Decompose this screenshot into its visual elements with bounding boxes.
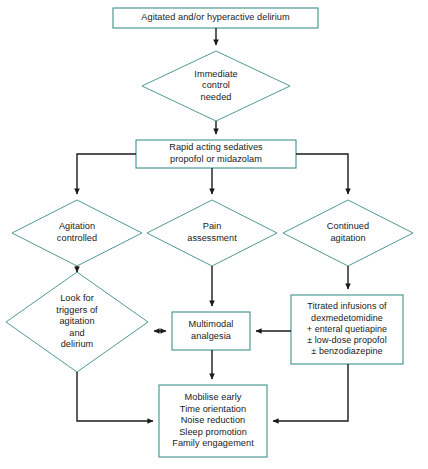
node-shape-titrated-infusions	[291, 295, 403, 364]
node-shape-rapid-sedatives	[136, 140, 296, 168]
node-shape-look-for-triggers	[6, 272, 148, 372]
node-shape-pain-assessment	[147, 200, 277, 266]
node-shape-continued-agitation	[283, 200, 413, 266]
node-shape-non-pharmacological	[159, 385, 267, 457]
node-shape-multimodal-analgesia	[172, 312, 250, 350]
node-shape-agitation-controlled	[12, 200, 142, 266]
flowchart-canvas	[0, 0, 428, 469]
node-shape-group	[6, 8, 413, 457]
connector-triggers-to-nonpharm	[77, 372, 153, 421]
node-shape-immediate-control	[142, 51, 290, 121]
node-shape-start	[113, 8, 318, 28]
connector-titrated-to-nonpharm	[273, 364, 348, 421]
flowchart-diagram: Agitated and/or hyperactive delirium Imm…	[0, 0, 428, 469]
connector-rapid-to-continued-agitation	[296, 154, 348, 194]
connector-rapid-to-agitation-controlled	[77, 154, 136, 194]
